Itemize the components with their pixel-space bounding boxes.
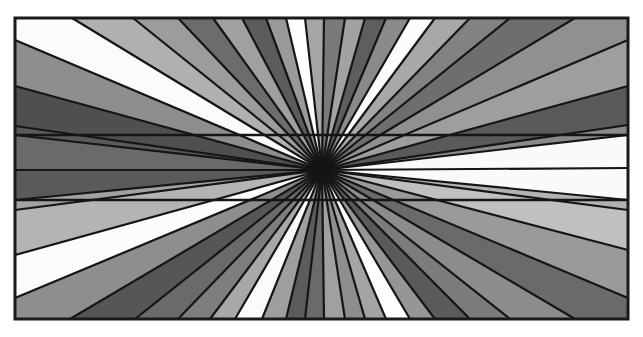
radiating-wedges-svg (0, 0, 643, 337)
illusion-figure (0, 0, 643, 337)
